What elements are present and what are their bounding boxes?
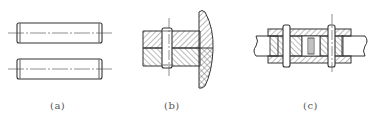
pin-1 [8, 23, 112, 43]
right-pin [328, 14, 335, 73]
left-pin [283, 25, 290, 67]
technical-drawing-figure: (a) (b) (c) [0, 0, 380, 119]
panel-b-drawing [143, 11, 213, 89]
right-shaft [342, 36, 367, 56]
panel-c-drawing [254, 14, 367, 73]
pin [162, 18, 172, 78]
caption-b: (b) [164, 100, 180, 111]
caption-c: (c) [303, 100, 318, 111]
caption-a: (a) [50, 100, 65, 111]
pin-2 [8, 59, 112, 79]
panel-a-drawing [8, 23, 112, 79]
